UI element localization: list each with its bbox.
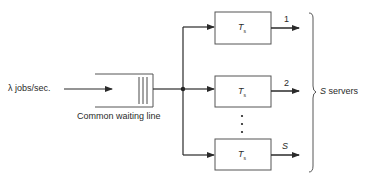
server-2-output-label: 2 (284, 79, 289, 88)
servers-count-symbol: S (320, 86, 326, 96)
server-1-time-label: Ts (238, 23, 246, 34)
server-1-time-sub: s (244, 28, 247, 34)
server-s-time-label: Ts (238, 150, 246, 161)
server-output-arrows (271, 28, 299, 155)
arrival-rate-label: λ jobs/sec. (8, 84, 51, 93)
queue-label: Common waiting line (77, 112, 161, 121)
common-waiting-line-queue (95, 74, 153, 107)
server-s-output-label: S (282, 142, 288, 151)
server-s-time-sub: s (244, 155, 247, 161)
ellipsis-dots (241, 115, 243, 133)
server-2-time-sub: s (244, 92, 247, 98)
servers-word: servers (329, 86, 359, 96)
servers-brace (309, 13, 316, 172)
distribution-lines (183, 27, 214, 155)
servers-group-label: S servers (320, 87, 358, 96)
diagram-canvas (0, 0, 365, 183)
server-1-output-label: 1 (284, 15, 289, 24)
server-2-time-label: Ts (238, 87, 246, 98)
